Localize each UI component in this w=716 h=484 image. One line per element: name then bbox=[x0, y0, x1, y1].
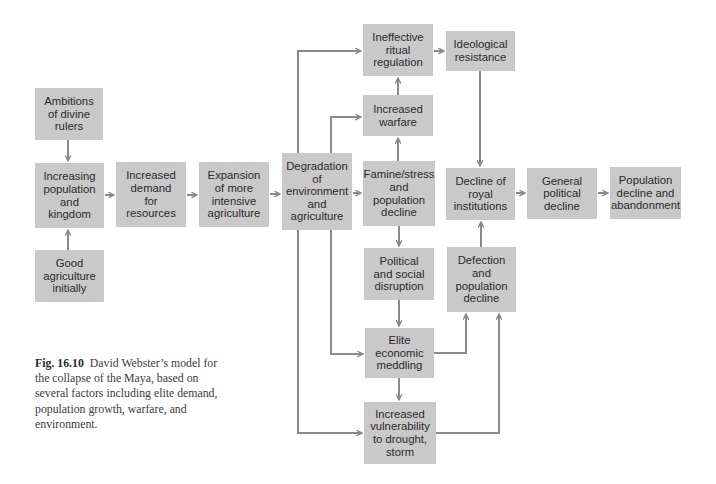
node-famine-stress: Famine/stress and population decline bbox=[363, 161, 435, 226]
node-label: Defection and population decline bbox=[455, 254, 507, 304]
figure-number: Fig. 16.10 bbox=[35, 356, 84, 370]
arrow-degradation-to-ritual bbox=[298, 51, 361, 153]
node-ambitions-of-divine-rulers: Ambitions of divine rulers bbox=[35, 88, 103, 140]
node-label: Political and social disruption bbox=[374, 255, 425, 293]
node-label: Good agriculture initially bbox=[43, 257, 96, 295]
node-label: Ineffective ritual regulation bbox=[372, 31, 423, 69]
node-ideological-resistance: Ideological resistance bbox=[446, 31, 515, 71]
node-label: Increased vulnerability to drought, stor… bbox=[370, 408, 430, 458]
node-population-abandonment: Population decline and abandonment bbox=[610, 167, 681, 219]
node-political-social-disruption: Political and social disruption bbox=[364, 248, 434, 300]
node-label: Population decline and abandonment bbox=[611, 174, 680, 212]
node-label: Decline of royal institutions bbox=[454, 175, 507, 213]
arrow-vulnerability-to-defection bbox=[436, 314, 499, 433]
node-label: Expansion of more intensive agriculture bbox=[208, 169, 261, 219]
node-label: Increased warfare bbox=[373, 103, 423, 128]
node-decline-royal-institutions: Decline of royal institutions bbox=[446, 168, 515, 220]
node-label: Increased demand for resources bbox=[126, 169, 176, 219]
node-label: General political decline bbox=[542, 175, 582, 213]
node-label: Famine/stress and population decline bbox=[364, 168, 435, 218]
node-good-agriculture: Good agriculture initially bbox=[35, 250, 104, 302]
arrow-degradation-to-elite bbox=[331, 230, 363, 354]
figure-caption: Fig. 16.10David Webster’s model for the … bbox=[35, 356, 220, 432]
node-label: Ideological resistance bbox=[453, 38, 507, 63]
node-label: Elite economic meddling bbox=[375, 334, 423, 372]
node-increased-demand: Increased demand for resources bbox=[116, 162, 186, 227]
node-elite-economic-meddling: Elite economic meddling bbox=[365, 328, 434, 378]
node-increased-warfare: Increased warfare bbox=[363, 95, 433, 136]
node-degradation: Degradation of environment and agricultu… bbox=[282, 153, 352, 230]
node-label: Increasing population and kingdom bbox=[43, 170, 95, 220]
node-expansion-agriculture: Expansion of more intensive agriculture bbox=[199, 162, 269, 227]
diagram-canvas: Ambitions of divine rulers Increasing po… bbox=[0, 0, 716, 484]
node-ineffective-ritual: Ineffective ritual regulation bbox=[363, 24, 433, 76]
arrow-elite-to-defection bbox=[434, 314, 466, 353]
node-label: Ambitions of divine rulers bbox=[44, 95, 94, 133]
node-general-political-decline: General political decline bbox=[527, 168, 597, 219]
node-label: Degradation of environment and agricultu… bbox=[286, 160, 348, 223]
node-increasing-population: Increasing population and kingdom bbox=[35, 163, 104, 228]
arrow-degradation-to-warfare bbox=[331, 117, 361, 153]
node-increased-vulnerability: Increased vulnerability to drought, stor… bbox=[364, 402, 436, 464]
node-defection: Defection and population decline bbox=[447, 247, 516, 312]
